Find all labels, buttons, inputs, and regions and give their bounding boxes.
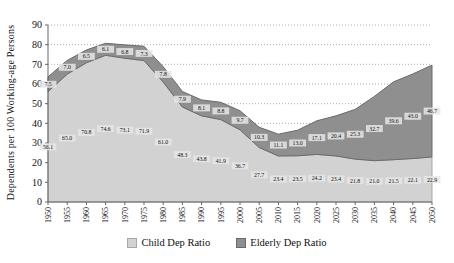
elderly-series-swatch-icon (236, 238, 246, 248)
dependency-ratio-chart: 0102030405060708090195019551960196519701… (0, 0, 454, 263)
svg-text:6.1: 6.1 (102, 46, 109, 52)
svg-text:2000: 2000 (236, 207, 245, 223)
svg-text:1975: 1975 (140, 207, 149, 223)
svg-text:7.5: 7.5 (44, 81, 51, 87)
svg-text:2025: 2025 (332, 207, 341, 223)
svg-text:7.0: 7.0 (64, 64, 71, 70)
svg-text:43.8: 43.8 (197, 156, 207, 162)
svg-text:1995: 1995 (217, 207, 226, 223)
svg-text:0: 0 (37, 196, 42, 207)
svg-text:21.5: 21.5 (389, 178, 399, 184)
svg-text:61.0: 61.0 (158, 139, 168, 145)
svg-text:50: 50 (32, 98, 42, 109)
svg-text:7.3: 7.3 (140, 51, 147, 57)
svg-text:90: 90 (32, 19, 42, 30)
chart-figure: 0102030405060708090195019551960196519701… (0, 0, 454, 263)
svg-text:25.3: 25.3 (350, 131, 360, 137)
svg-text:2005: 2005 (255, 207, 264, 223)
svg-text:2050: 2050 (428, 207, 437, 223)
svg-text:2020: 2020 (313, 207, 322, 223)
svg-text:36.7: 36.7 (235, 163, 245, 169)
svg-text:7.8: 7.8 (160, 71, 167, 77)
svg-text:20: 20 (32, 157, 42, 168)
svg-text:2015: 2015 (293, 207, 302, 223)
svg-text:6.8: 6.8 (121, 49, 128, 55)
svg-text:2010: 2010 (274, 207, 283, 223)
svg-text:1960: 1960 (82, 207, 91, 223)
svg-text:22.9: 22.9 (427, 177, 437, 183)
svg-text:40: 40 (32, 118, 42, 129)
svg-text:1950: 1950 (44, 207, 53, 223)
svg-text:21.8: 21.8 (350, 178, 360, 184)
y-axis-tick-labels: 0102030405060708090 (32, 19, 42, 207)
svg-text:41.9: 41.9 (216, 158, 226, 164)
svg-text:48.3: 48.3 (177, 152, 187, 158)
chart-canvas: 0102030405060708090195019551960196519701… (0, 0, 454, 263)
svg-text:8.1: 8.1 (198, 105, 205, 111)
svg-text:2040: 2040 (389, 207, 398, 223)
svg-text:13.0: 13.0 (293, 140, 303, 146)
child-series-swatch-icon (127, 238, 137, 248)
svg-text:80: 80 (32, 39, 42, 50)
svg-text:24.2: 24.2 (312, 175, 322, 181)
svg-text:43.0: 43.0 (408, 113, 418, 119)
legend: Child Dep Ratio Elderly Dep Ratio (0, 237, 454, 248)
svg-text:23.5: 23.5 (293, 176, 303, 182)
legend-label-elderly: Elderly Dep Ratio (250, 237, 326, 248)
svg-text:1980: 1980 (159, 207, 168, 223)
svg-text:1965: 1965 (101, 207, 110, 223)
svg-text:65.0: 65.0 (62, 135, 72, 141)
svg-text:2030: 2030 (351, 207, 360, 223)
x-axis-tick-labels: 1950195519601965197019751980198519901995… (44, 207, 437, 223)
svg-text:1970: 1970 (121, 207, 130, 223)
svg-text:46.7: 46.7 (427, 108, 437, 114)
legend-label-child: Child Dep Ratio (141, 237, 210, 248)
legend-item-child: Child Dep Ratio (127, 237, 210, 248)
svg-text:39.6: 39.6 (389, 118, 399, 124)
svg-text:1990: 1990 (197, 207, 206, 223)
svg-text:74.6: 74.6 (101, 126, 111, 132)
svg-text:1985: 1985 (178, 207, 187, 223)
svg-text:8.8: 8.8 (217, 108, 224, 114)
svg-text:1955: 1955 (63, 207, 72, 223)
svg-text:10: 10 (32, 177, 42, 188)
svg-text:73.1: 73.1 (120, 127, 130, 133)
svg-text:32.7: 32.7 (369, 126, 379, 132)
svg-text:70.8: 70.8 (81, 129, 91, 135)
svg-text:23.4: 23.4 (331, 176, 341, 182)
legend-item-elderly: Elderly Dep Ratio (236, 237, 326, 248)
y-axis-title: Dependents per 100 Working-age Persons (5, 8, 16, 218)
svg-text:2045: 2045 (409, 207, 418, 223)
svg-text:6.5: 6.5 (83, 53, 90, 59)
svg-text:71.9: 71.9 (139, 128, 149, 134)
svg-text:22.1: 22.1 (408, 177, 418, 183)
svg-text:17.1: 17.1 (312, 135, 322, 141)
svg-text:2035: 2035 (370, 207, 379, 223)
svg-text:21.0: 21.0 (369, 178, 379, 184)
svg-text:10.3: 10.3 (254, 134, 264, 140)
svg-text:56.1: 56.1 (43, 144, 53, 150)
svg-text:11.1: 11.1 (273, 142, 283, 148)
svg-text:7.9: 7.9 (179, 96, 186, 102)
svg-text:20.4: 20.4 (331, 133, 341, 139)
svg-text:9.7: 9.7 (236, 117, 243, 123)
svg-text:27.7: 27.7 (254, 172, 264, 178)
svg-text:23.4: 23.4 (273, 176, 283, 182)
svg-text:70: 70 (32, 59, 42, 70)
